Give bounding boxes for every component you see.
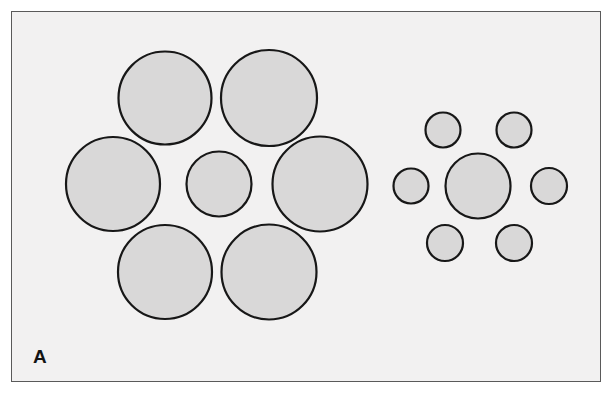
right-cluster-group	[394, 113, 568, 262]
circle-R-bottom-right	[496, 225, 532, 261]
circle-R-top-left	[426, 113, 461, 148]
circle-L-top-left	[119, 52, 212, 145]
panel-label: A	[33, 347, 47, 366]
circle-R-bottom-left	[427, 225, 463, 261]
circle-R-top-right	[497, 113, 532, 148]
circle-R-mid-right	[531, 168, 567, 204]
circle-L-top-right	[221, 50, 317, 146]
figure-root: A	[0, 0, 613, 396]
circle-R-mid-left	[394, 169, 429, 204]
circle-L-mid-right	[273, 137, 368, 232]
circle-L-bottom-left	[118, 225, 212, 319]
left-cluster-group	[66, 50, 368, 320]
circle-L-bottom-right	[222, 225, 317, 320]
circle-L-mid-left	[66, 137, 160, 231]
circle-R-center	[446, 154, 511, 219]
circle-L-center	[187, 152, 252, 217]
circles-canvas	[0, 0, 613, 396]
